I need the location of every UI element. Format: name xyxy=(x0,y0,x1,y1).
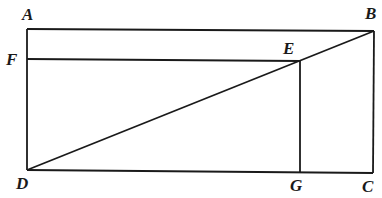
segment-fe xyxy=(27,59,300,61)
segment-db xyxy=(27,31,374,170)
label-e: E xyxy=(282,39,294,58)
label-c: C xyxy=(362,177,374,196)
label-d: D xyxy=(15,174,28,193)
geometry-diagram: A B F E D G C xyxy=(0,0,382,198)
label-g: G xyxy=(290,176,303,195)
segment-ab xyxy=(27,29,374,31)
segment-bc xyxy=(373,31,374,173)
label-a: A xyxy=(21,5,33,24)
label-f: F xyxy=(5,50,18,69)
segment-cd xyxy=(27,170,373,173)
label-b: B xyxy=(364,4,376,23)
